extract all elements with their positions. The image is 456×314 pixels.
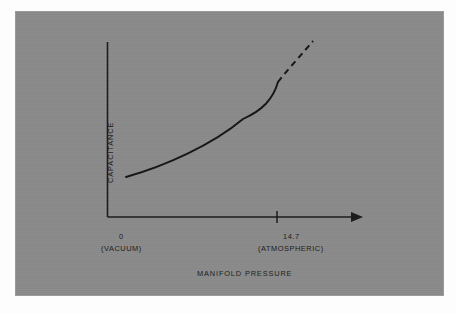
capacitance-curve-dashed xyxy=(278,41,313,82)
x-axis-title: MANIFOLD PRESSURE xyxy=(197,270,292,277)
x-tick-label-atmospheric: 14.7 xyxy=(283,233,300,240)
x-axis-arrowhead xyxy=(351,212,363,222)
x-tick-sublabel-vacuum: (VACUUM) xyxy=(101,245,142,252)
x-tick-sublabel-atmospheric: (ATMOSPHERIC) xyxy=(258,245,324,252)
y-axis-title: CAPACITANCE xyxy=(107,122,114,183)
figure-panel: CAPACITANCE 0 (VACUUM) 14.7 (ATMOSPHERIC… xyxy=(15,11,444,296)
capacitance-curve-solid xyxy=(126,82,278,177)
x-tick-label-zero: 0 xyxy=(119,233,124,240)
capacitance-pressure-chart xyxy=(15,11,444,296)
page-canvas: CAPACITANCE 0 (VACUUM) 14.7 (ATMOSPHERIC… xyxy=(0,0,456,314)
